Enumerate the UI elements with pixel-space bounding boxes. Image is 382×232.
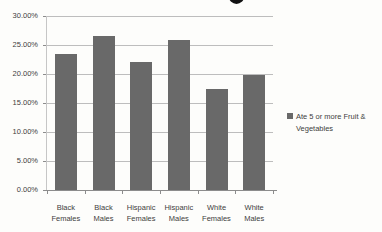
x-axis-tick bbox=[122, 191, 123, 194]
bar-hispanic-males bbox=[168, 40, 190, 190]
x-axis-tick bbox=[47, 191, 48, 194]
x-tick-label-line: Males bbox=[230, 213, 278, 224]
y-tick-label: 10.00% bbox=[0, 127, 38, 137]
gridline bbox=[47, 74, 273, 75]
x-tick-label-line: White bbox=[230, 202, 278, 213]
bar-white-males bbox=[243, 75, 265, 190]
bar-white-females bbox=[206, 89, 228, 191]
gridline bbox=[47, 16, 273, 17]
gridline bbox=[47, 161, 273, 162]
y-axis-line bbox=[46, 16, 47, 190]
y-tick-label: 30.00% bbox=[0, 11, 38, 21]
gridline bbox=[47, 45, 273, 46]
x-tick-label-white-males: WhiteMales bbox=[230, 202, 278, 224]
legend-label: Ate 5 or more Fruit & Vegetables bbox=[296, 111, 380, 134]
x-axis-tick bbox=[85, 191, 86, 194]
y-tick-label: 15.00% bbox=[0, 98, 38, 108]
legend-marker-square bbox=[287, 113, 293, 119]
x-axis-tick bbox=[160, 191, 161, 194]
bar-black-males bbox=[93, 36, 115, 190]
x-axis-tick bbox=[198, 191, 199, 194]
y-tick-label: 0.00% bbox=[0, 185, 38, 195]
bar-black-females bbox=[55, 54, 77, 190]
y-tick-label: 25.00% bbox=[0, 40, 38, 50]
x-axis-tick bbox=[273, 191, 274, 194]
bar-hispanic-females bbox=[130, 62, 152, 190]
gridline bbox=[47, 132, 273, 133]
y-tick-label: 5.00% bbox=[0, 156, 38, 166]
x-axis-line bbox=[46, 190, 277, 191]
y-tick-label: 20.00% bbox=[0, 69, 38, 79]
x-axis-tick bbox=[235, 191, 236, 194]
gridline bbox=[47, 103, 273, 104]
bar-chart-screenshot: 30.00%25.00%20.00%15.00%10.00%5.00%0.00%… bbox=[0, 0, 382, 232]
legend: Ate 5 or more Fruit & Vegetables bbox=[287, 111, 380, 134]
